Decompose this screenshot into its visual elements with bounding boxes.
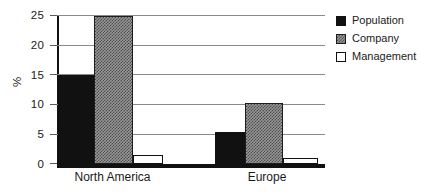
legend-label-management: Management [352, 51, 416, 62]
y-tick-label-5: 5 [18, 129, 44, 139]
chart-legend: Population Company Management [336, 12, 432, 66]
bar-north-america-management [133, 155, 163, 164]
x-category-label-north-america: North America [60, 170, 165, 184]
legend-swatch-population-icon [336, 16, 346, 26]
x-category-label-europe: Europe [222, 170, 312, 184]
y-tick-mark-0 [50, 163, 57, 164]
y-tick-mark-25 [50, 15, 57, 16]
x-axis-baseline [57, 164, 325, 168]
legend-swatch-company-icon [336, 34, 346, 44]
legend-item-management: Management [336, 48, 432, 65]
legend-item-company: Company [336, 30, 432, 47]
y-tick-mark-20 [50, 45, 57, 46]
y-tick-mark-10 [50, 104, 57, 105]
y-tick-mark-15 [50, 74, 57, 75]
y-tick-mark-5 [50, 134, 57, 135]
bar-europe-company [245, 103, 283, 164]
y-axis-labels: % 25 20 15 10 5 0 [14, 0, 44, 195]
legend-label-company: Company [352, 33, 399, 44]
legend-swatch-management-icon [336, 52, 346, 62]
plot-area [57, 15, 325, 164]
bar-chart-figure: % 25 20 15 10 5 0 North America Europe [0, 0, 434, 195]
bar-europe-population [215, 132, 245, 164]
y-tick-label-0: 0 [18, 159, 44, 169]
y-tick-label-20: 20 [18, 40, 44, 50]
bar-north-america-population [58, 75, 94, 164]
legend-item-population: Population [336, 12, 432, 29]
y-tick-label-15: 15 [18, 70, 44, 80]
legend-label-population: Population [352, 15, 404, 26]
y-tick-label-25: 25 [18, 10, 44, 20]
bar-north-america-company [94, 16, 133, 164]
y-tick-label-10: 10 [18, 99, 44, 109]
